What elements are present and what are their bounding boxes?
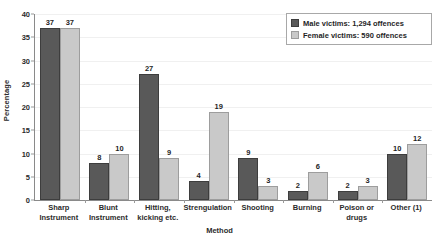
bar-group: 279 (134, 14, 184, 200)
bar-value-label: 9 (246, 148, 250, 157)
legend-item-female: Female victims: 590 offences (291, 29, 427, 41)
legend-label-female: Female victims: 590 offences (303, 31, 407, 40)
bar-slot: 19 (209, 14, 229, 200)
y-axis-tick-label: 35 (22, 33, 30, 42)
x-axis-category-label: SharpInstrument (34, 203, 84, 222)
bar-group: 3737 (35, 14, 85, 200)
bar-value-label: 27 (145, 64, 153, 73)
x-axis-title: Method (0, 226, 439, 235)
bar-female[interactable] (109, 154, 129, 201)
y-axis-title-label: Percentage (3, 79, 12, 120)
bar-slot: 9 (238, 14, 258, 200)
bar-value-label: 12 (413, 134, 421, 143)
y-axis-tick-label: 30 (22, 56, 30, 65)
chart-legend: Male victims: 1,294 offences Female vict… (286, 13, 432, 45)
bar-value-label: 19 (215, 102, 223, 111)
bar-slot: 27 (139, 14, 159, 200)
legend-label-male: Male victims: 1,294 offences (303, 19, 404, 28)
bar-slot: 37 (40, 14, 60, 200)
bar-male[interactable] (338, 191, 358, 200)
bar-slot: 10 (109, 14, 129, 200)
bar-female[interactable] (209, 112, 229, 200)
bar-female[interactable] (308, 172, 328, 200)
bar-group: 810 (85, 14, 135, 200)
y-axis-tick-label: 25 (22, 79, 30, 88)
bar-slot: 3 (258, 14, 278, 200)
y-axis-tick-label: 20 (22, 103, 30, 112)
bar-male[interactable] (139, 74, 159, 200)
x-axis-category-label: BluntInstrument (84, 203, 134, 222)
bar-male[interactable] (288, 191, 308, 200)
x-axis-category-labels: SharpInstrumentBluntInstrumentHitting,ki… (34, 203, 431, 222)
bar-male[interactable] (40, 28, 60, 200)
x-axis-category-label: Hitting,kicking etc. (133, 203, 183, 222)
bar-female[interactable] (407, 144, 427, 200)
legend-item-male: Male victims: 1,294 offences (291, 17, 427, 29)
bar-slot: 9 (159, 14, 179, 200)
x-axis-category-label: Other (1) (381, 203, 431, 222)
bar-slot: 4 (189, 14, 209, 200)
bar-male[interactable] (189, 181, 209, 200)
bar-value-label: 37 (66, 18, 74, 27)
bar-value-label: 2 (296, 181, 300, 190)
bar-group: 93 (234, 14, 284, 200)
bar-slot: 8 (89, 14, 109, 200)
y-axis-tick-label: 15 (22, 126, 30, 135)
bar-value-label: 2 (345, 181, 349, 190)
bar-value-label: 10 (115, 144, 123, 153)
bar-value-label: 10 (393, 144, 401, 153)
x-axis-category-label: Strengulation (183, 203, 233, 222)
bar-male[interactable] (387, 154, 407, 201)
bar-value-label: 9 (167, 148, 171, 157)
y-axis: 0510152025303540 (14, 14, 34, 200)
x-axis-category-label: Poison ordrugs (332, 203, 382, 222)
bar-group: 419 (184, 14, 234, 200)
bar-value-label: 3 (266, 176, 270, 185)
bar-male[interactable] (238, 158, 258, 200)
bar-female[interactable] (358, 186, 378, 200)
legend-swatch-male-icon (291, 19, 299, 27)
bar-value-label: 6 (316, 162, 320, 171)
bar-slot: 37 (60, 14, 80, 200)
bar-female[interactable] (258, 186, 278, 200)
bar-value-label: 37 (46, 18, 54, 27)
bar-chart: Percentage 0510152025303540 373781027941… (0, 0, 439, 243)
bar-female[interactable] (159, 158, 179, 200)
bar-male[interactable] (89, 163, 109, 200)
bar-value-label: 4 (197, 171, 201, 180)
y-axis-tick-label: 0 (26, 196, 30, 205)
y-axis-tick-label: 40 (22, 10, 30, 19)
legend-swatch-female-icon (291, 31, 299, 39)
bar-value-label: 8 (97, 153, 101, 162)
bar-value-label: 3 (365, 176, 369, 185)
x-axis-category-label: Shooting (233, 203, 283, 222)
y-axis-title: Percentage (0, 0, 14, 200)
bar-female[interactable] (60, 28, 80, 200)
y-axis-tick-label: 10 (22, 149, 30, 158)
y-axis-tick-label: 5 (26, 172, 30, 181)
x-axis-category-label: Burning (282, 203, 332, 222)
x-axis-title-label: Method (206, 226, 233, 235)
